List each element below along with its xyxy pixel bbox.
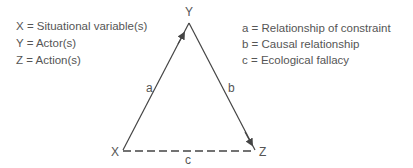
edge-a-label: a xyxy=(146,81,153,95)
node-z-label: Z xyxy=(259,145,266,159)
node-x-label: X xyxy=(111,145,119,159)
edge-b-arrow-icon xyxy=(245,132,251,143)
edge-a-arrow-icon xyxy=(178,35,183,44)
edge-b xyxy=(189,23,255,150)
triangle-diagram: Y X Z a b c xyxy=(0,0,413,168)
node-y-label: Y xyxy=(185,5,193,19)
edge-c-label: c xyxy=(185,153,191,167)
edge-b-label: b xyxy=(228,81,235,95)
